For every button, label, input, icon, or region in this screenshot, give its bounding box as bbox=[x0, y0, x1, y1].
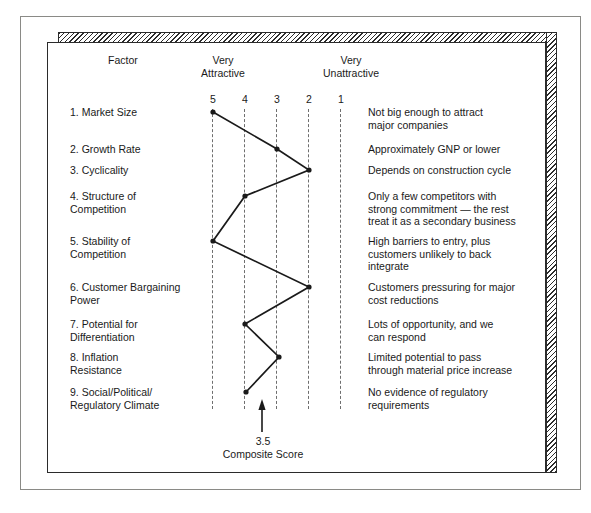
data-point-8 bbox=[276, 354, 281, 359]
attractiveness-chart-panel: Factor Very Attractive Very Unattractive… bbox=[47, 42, 546, 473]
scale-tick-3: 3 bbox=[269, 93, 285, 105]
factor-comment-9: No evidence of regulatory requirements bbox=[368, 386, 546, 411]
factor-comment-7: Lots of opportunity, and we can respond bbox=[368, 318, 546, 343]
factor-label-9: 9. Social/Political/ Regulatory Climate bbox=[70, 386, 220, 411]
gridline-2 bbox=[308, 109, 309, 409]
scale-tick-1: 1 bbox=[333, 93, 349, 105]
composite-score-caption: Composite Score bbox=[203, 448, 323, 461]
composite-score-annotation: 3.5 Composite Score bbox=[203, 435, 323, 461]
composite-score-arrow bbox=[258, 399, 265, 432]
column-header-very-unattractive: Very Unattractive bbox=[296, 54, 406, 79]
factor-label-8: 8. Inflation Resistance bbox=[70, 351, 220, 376]
factor-comment-6: Customers pressuring for major cost redu… bbox=[368, 281, 546, 306]
factor-label-4: 4. Structure of Competition bbox=[70, 190, 220, 215]
factor-label-6: 6. Customer Bargaining Power bbox=[70, 281, 220, 306]
factor-label-3: 3. Cyclicality bbox=[70, 164, 220, 177]
gridline-1 bbox=[340, 109, 341, 409]
panel-shadow-right bbox=[546, 32, 557, 473]
scale-tick-4: 4 bbox=[237, 93, 253, 105]
factor-label-1: 1. Market Size bbox=[70, 106, 220, 119]
gridline-3 bbox=[276, 109, 277, 409]
factor-comment-3: Depends on construction cycle bbox=[368, 164, 546, 177]
factor-comment-2: Approximately GNP or lower bbox=[368, 143, 546, 156]
column-header-very-attractive: Very Attractive bbox=[173, 54, 273, 79]
profile-polyline bbox=[213, 112, 309, 392]
column-header-factor: Factor bbox=[78, 54, 168, 67]
arrow-head bbox=[258, 399, 265, 410]
composite-score-value: 3.5 bbox=[203, 435, 323, 448]
factor-comment-5: High barriers to entry, plus customers u… bbox=[368, 235, 546, 273]
factor-label-2: 2. Growth Rate bbox=[70, 143, 220, 156]
factor-label-7: 7. Potential for Differentiation bbox=[70, 318, 220, 343]
scale-tick-2: 2 bbox=[301, 93, 317, 105]
factor-label-5: 5. Stability of Competition bbox=[70, 235, 220, 260]
factor-comment-1: Not big enough to attract major companie… bbox=[368, 106, 546, 131]
profile-data-points bbox=[210, 109, 311, 394]
scale-tick-5: 5 bbox=[205, 93, 221, 105]
gridline-4 bbox=[244, 109, 245, 409]
factor-comment-4: Only a few competitors with strong commi… bbox=[368, 190, 546, 228]
factor-comment-8: Limited potential to pass through materi… bbox=[368, 351, 546, 376]
